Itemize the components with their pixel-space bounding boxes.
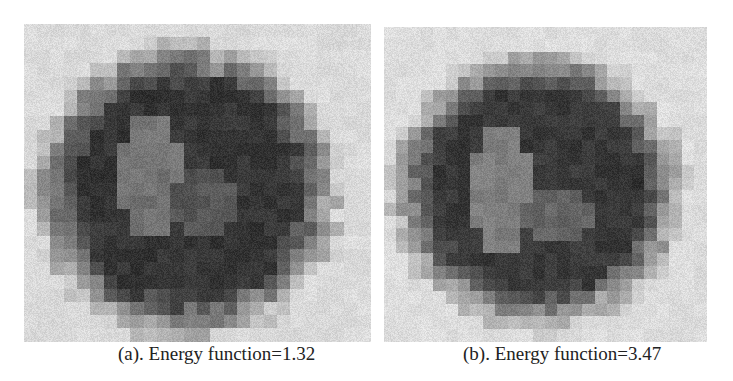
- caption-a: (a). Energy function=1.32: [118, 343, 315, 365]
- image-panel-b: [384, 27, 707, 342]
- energy-map-b: [384, 27, 707, 342]
- energy-map-a: [24, 24, 371, 342]
- caption-b: (b). Energy function=3.47: [463, 343, 661, 365]
- image-panel-a: [24, 24, 371, 342]
